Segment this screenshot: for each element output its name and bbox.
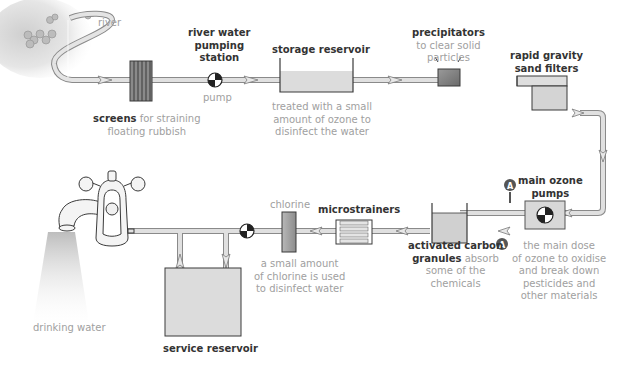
arrow-left-icon [498, 227, 510, 235]
storage-reservoir-tank [280, 58, 353, 92]
carbon-tank [432, 203, 467, 243]
precipitators-label: precipitators to clear solid particles [412, 27, 485, 65]
chlorine-desc: a small amount of chlorine is used to di… [254, 258, 345, 296]
pump-icon [208, 73, 222, 87]
screens-icon [130, 61, 152, 101]
main-ozone-pumps-label: main ozone pumps [518, 175, 583, 200]
river-label: river [98, 17, 121, 30]
chlorine-label: chlorine [270, 199, 310, 212]
ozone-pump-box [525, 201, 565, 229]
drinking-water-label: drinking water [33, 322, 106, 335]
main-ozone-desc: the main dose of ozone to oxidise and br… [512, 240, 606, 303]
sand-filters-label: rapid gravity sand filters [510, 50, 583, 75]
pump-icon [240, 224, 254, 238]
storage-reservoir-title: storage reservoir [272, 44, 370, 57]
sand-filter-tank [517, 76, 567, 110]
microstrainer-unit [336, 220, 372, 244]
service-reservoir-label: service reservoir [163, 343, 258, 356]
tap-icon [32, 171, 145, 330]
screens-label: screens for straining floating rubbish [93, 113, 201, 138]
storage-reservoir-desc: treated with a small amount of ozone to … [272, 101, 372, 139]
pumping-station-label: river water pumping station [188, 27, 251, 65]
chlorine-injector [282, 212, 296, 252]
river-landscape [0, 0, 112, 80]
pump-label: pump [203, 92, 232, 105]
activated-carbon-label: activated carbon granules absorb some of… [408, 240, 503, 290]
marker-a-icon: A [504, 179, 516, 203]
service-reservoir-tank [165, 268, 241, 336]
svg-text:A: A [507, 182, 514, 191]
microstrainers-label: microstrainers [318, 204, 400, 217]
screens-title: screens [93, 113, 136, 124]
